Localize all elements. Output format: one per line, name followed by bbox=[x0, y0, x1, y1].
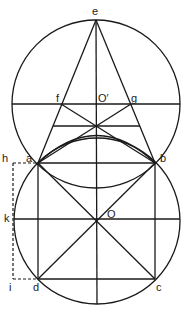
label-d: d bbox=[33, 281, 39, 293]
label-h: h bbox=[2, 152, 8, 164]
label-a: a bbox=[26, 152, 33, 164]
label-o: O bbox=[107, 208, 116, 220]
label-g: g bbox=[131, 92, 137, 104]
line-g-a bbox=[38, 104, 131, 163]
label-o-prime: O′ bbox=[98, 92, 109, 104]
label-e: e bbox=[92, 5, 98, 17]
label-c: c bbox=[156, 281, 162, 293]
label-i: i bbox=[9, 281, 11, 293]
line-e-a bbox=[38, 20, 96, 163]
vertical-axis bbox=[96, 20, 97, 304]
line-f-b bbox=[61, 104, 155, 163]
geometric-construction-diagram: e f O′ g h a b k O i d c bbox=[0, 0, 194, 312]
label-k: k bbox=[4, 212, 10, 224]
label-f: f bbox=[56, 92, 60, 104]
label-b: b bbox=[160, 152, 166, 164]
